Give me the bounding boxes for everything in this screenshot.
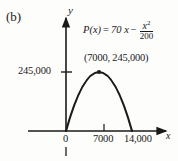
equation-fraction: x2 200	[140, 20, 154, 41]
y-tick-label-245000: 245,000	[18, 66, 51, 77]
equation-equals-sign: =	[103, 25, 109, 36]
vertex-point-marker	[97, 70, 101, 74]
equation-fraction-denominator: 200	[140, 32, 154, 41]
equation-fraction-numerator: x2	[140, 20, 152, 31]
x-tick-label-14000: 14,000	[124, 134, 152, 145]
y-axis-label: y	[68, 5, 73, 16]
x-tick-label-0: 0	[63, 134, 68, 145]
vertex-coordinate-label: (7000, 245,000)	[84, 53, 148, 64]
x-tick-label-7000: 7000	[93, 134, 113, 145]
figure-panel: (b) y x 245,000 0 7000 14,000 (7000, 245…	[0, 0, 178, 161]
numerator-exponent: 2	[147, 19, 151, 27]
x-axis-label: x	[166, 131, 170, 141]
equation-lhs: P(x)	[83, 25, 101, 36]
equation-minus-sign: −	[131, 25, 137, 36]
equation-term-linear: 70 x	[111, 25, 129, 36]
function-equation: P(x) = 70 x − x2 200	[83, 20, 153, 41]
parabola-curve	[66, 72, 132, 131]
